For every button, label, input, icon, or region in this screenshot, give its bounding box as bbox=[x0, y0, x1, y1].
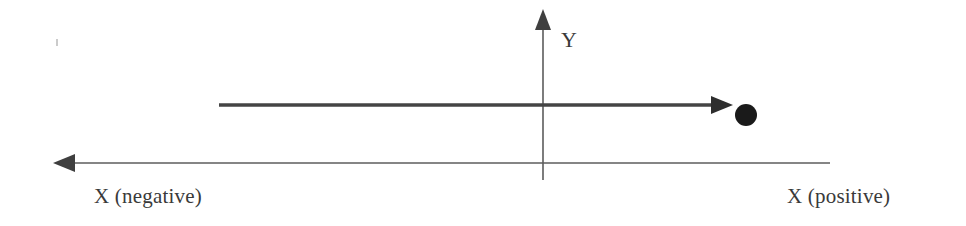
vector-diagram-figure: Y X (negative) X (positive) bbox=[0, 0, 966, 226]
x-negative-axis-label: X (negative) bbox=[94, 186, 202, 207]
x-positive-axis-label: X (positive) bbox=[787, 186, 890, 207]
y-axis-label: Y bbox=[561, 29, 577, 51]
scan-artifact-speck bbox=[56, 39, 58, 46]
particle-point-marker bbox=[735, 104, 757, 126]
